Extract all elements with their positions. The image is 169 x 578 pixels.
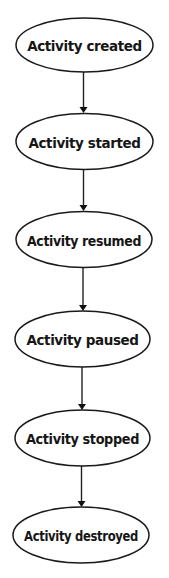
arrowhead-icon xyxy=(80,205,88,211)
arrow-resumed-to-paused xyxy=(79,268,87,311)
node-label: Activity paused xyxy=(26,332,138,348)
arrowhead-icon xyxy=(78,501,86,507)
node-label: Activity resumed xyxy=(27,233,141,249)
arrowhead-icon xyxy=(79,305,87,311)
node-label: Activity destroyed xyxy=(24,528,138,544)
node-activity-resumed: Activity resumed xyxy=(16,212,152,268)
node-activity-destroyed: Activity destroyed xyxy=(13,507,149,563)
node-label: Activity started xyxy=(28,135,140,151)
node-activity-created: Activity created xyxy=(16,18,153,72)
arrowhead-icon xyxy=(78,404,86,410)
arrow-started-to-resumed xyxy=(80,170,88,211)
node-label: Activity stopped xyxy=(26,431,139,447)
node-label: Activity created xyxy=(27,38,142,54)
arrowhead-icon xyxy=(80,107,88,113)
arrow-paused-to-stopped xyxy=(78,367,86,410)
node-activity-stopped: Activity stopped xyxy=(15,410,150,466)
node-activity-paused: Activity paused xyxy=(15,311,150,367)
activity-lifecycle-diagram: Activity created Activity started Activi… xyxy=(0,0,169,578)
arrow-created-to-started xyxy=(80,72,88,113)
node-activity-started: Activity started xyxy=(16,114,153,170)
arrow-stopped-to-destroyed xyxy=(78,466,86,507)
